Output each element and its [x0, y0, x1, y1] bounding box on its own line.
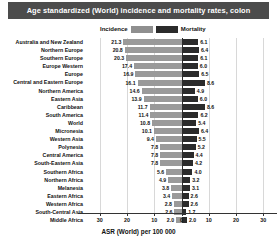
mortality-value-label: 4.4: [196, 152, 203, 158]
x-axis-tick: [127, 213, 128, 216]
category-label: Caribbean: [0, 103, 86, 111]
mortality-bar: [182, 169, 193, 175]
incidence-group: 9.4: [86, 135, 182, 143]
incidence-bar: [138, 80, 182, 86]
category-label: Polynesia: [0, 143, 86, 151]
bar-row: 20.86.4: [86, 46, 277, 54]
mortality-bar: [182, 177, 191, 183]
category-row: Europe: [0, 70, 86, 78]
incidence-value-label: 10.1: [142, 128, 152, 134]
mortality-bar: [182, 104, 205, 110]
mortality-group: 6.0: [182, 95, 278, 103]
incidence-group: 13.9: [86, 95, 182, 103]
x-axis-tick: [100, 213, 101, 216]
mortality-group: 6.2: [182, 111, 278, 119]
incidence-bar: [123, 39, 181, 45]
mortality-group: 6.4: [182, 127, 278, 135]
bar-row: 21.36.1: [86, 38, 277, 46]
mortality-value-label: 8.6: [207, 104, 214, 110]
category-label: Western Asia: [0, 135, 86, 143]
incidence-bar: [160, 144, 181, 150]
bar-row: 20.36.1: [86, 54, 277, 62]
x-axis-tick-label: 30: [97, 217, 103, 223]
category-label: Central America: [0, 151, 86, 159]
x-axis-tick-label: 20: [124, 217, 130, 223]
incidence-group: 10.8: [86, 119, 182, 127]
mortality-group: 5.5: [182, 135, 278, 143]
bar-row: 7.84.4: [86, 151, 277, 159]
incidence-value-label: 20.8: [113, 47, 123, 53]
legend-swatch-mortality: [156, 26, 178, 33]
chart-legend: Incidence Mortality: [100, 24, 206, 34]
category-label: Eastern Asia: [0, 95, 86, 103]
category-label: Northern Africa: [0, 176, 86, 184]
mortality-group: 5.4: [182, 119, 278, 127]
bar-row: 16.18.6: [86, 78, 277, 86]
category-row: South-Central Asia: [0, 208, 86, 216]
mortality-bar: [182, 136, 197, 142]
incidence-bar: [160, 152, 181, 158]
category-row: World: [0, 119, 86, 127]
mortality-group: 4.9: [182, 87, 278, 95]
x-axis-tick-label: 0: [180, 217, 183, 223]
incidence-group: 17.4: [86, 62, 182, 70]
mortality-value-label: 4.2: [195, 160, 202, 166]
category-label: Western Africa: [0, 200, 86, 208]
incidence-value-label: 17.4: [122, 63, 132, 69]
category-row: Micronesia: [0, 127, 86, 135]
incidence-group: 7.8: [86, 159, 182, 167]
category-label: South America: [0, 111, 86, 119]
incidence-value-label: 2.0: [167, 217, 174, 223]
incidence-value-label: 16.9: [123, 71, 133, 77]
mortality-value-label: 6.0: [200, 63, 207, 69]
mortality-group: 6.1: [182, 54, 278, 62]
mortality-bar: [182, 160, 193, 166]
category-row: South America: [0, 111, 86, 119]
incidence-value-label: 14.6: [130, 88, 140, 94]
mortality-bar: [182, 88, 195, 94]
incidence-bar: [144, 96, 182, 102]
bar-row: 10.85.4: [86, 119, 277, 127]
bar-row: 5.64.0: [86, 168, 277, 176]
mortality-value-label: 5.5: [199, 136, 206, 142]
incidence-bar: [154, 128, 182, 134]
incidence-group: 4.9: [86, 176, 182, 184]
incidence-bar: [166, 169, 181, 175]
incidence-group: 7.8: [86, 143, 182, 151]
category-label: Melanesia: [0, 184, 86, 192]
mortality-bar: [182, 152, 194, 158]
category-row: Western Asia: [0, 135, 86, 143]
incidence-group: 5.6: [86, 168, 182, 176]
x-axis-title: ASR (World) per 100 000: [0, 228, 277, 235]
category-row: Northern America: [0, 87, 86, 95]
category-label: Australia and New Zealand: [0, 38, 86, 46]
mortality-value-label: 2.6: [191, 193, 198, 199]
mortality-group: 4.2: [182, 159, 278, 167]
incidence-group: 11.4: [86, 111, 182, 119]
mortality-value-label: 5.4: [198, 120, 205, 126]
mortality-value-label: 4.9: [197, 88, 204, 94]
incidence-value-label: 4.9: [159, 177, 166, 183]
mortality-value-label: 3.1: [192, 185, 199, 191]
x-axis-tick: [182, 213, 183, 216]
bar-row: 3.42.6: [86, 192, 277, 200]
category-row: Central and Eastern Europe: [0, 78, 86, 86]
incidence-group: 16.1: [86, 78, 182, 86]
mortality-group: 6.4: [182, 46, 278, 54]
x-axis-tick-label: 20: [233, 217, 239, 223]
mortality-bar: [182, 128, 199, 134]
mortality-bar: [182, 193, 189, 199]
incidence-value-label: 11.4: [139, 112, 149, 118]
mortality-bar: [182, 71, 200, 77]
category-row: Central America: [0, 151, 86, 159]
bar-row: 11.46.2: [86, 111, 277, 119]
bar-row: 7.85.2: [86, 143, 277, 151]
incidence-value-label: 16.1: [125, 80, 135, 86]
incidence-group: 3.4: [86, 192, 182, 200]
category-label: Northern America: [0, 87, 86, 95]
incidence-bar: [142, 88, 182, 94]
category-row: South-Eastern Asia: [0, 159, 86, 167]
mortality-group: 5.2: [182, 143, 278, 151]
incidence-value-label: 7.8: [151, 152, 158, 158]
mortality-group: 3.1: [182, 184, 278, 192]
